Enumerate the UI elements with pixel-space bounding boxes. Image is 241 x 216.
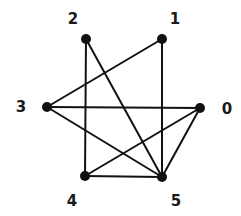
node-2 [81,34,91,44]
edge-3-5 [47,107,162,177]
node-label-2: 2 [68,10,78,28]
graph-diagram: 012345 [0,0,241,216]
edge-3-0 [47,107,200,108]
node-4 [80,171,90,181]
edge-layer [47,39,200,177]
node-1 [157,34,167,44]
node-label-0: 0 [222,100,232,118]
node-5 [157,172,167,182]
node-0 [195,103,205,113]
node-label-4: 4 [67,192,77,210]
node-label-3: 3 [16,98,26,116]
node-3 [42,102,52,112]
node-label-1: 1 [170,10,180,28]
edge-1-3 [47,39,162,107]
edge-4-5 [85,176,162,177]
node-label-5: 5 [171,192,181,210]
